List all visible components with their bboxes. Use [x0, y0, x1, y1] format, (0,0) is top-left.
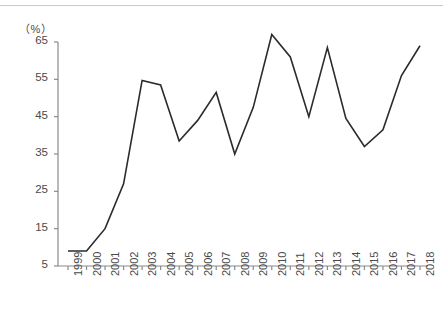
- x-tick-label: 2005: [183, 252, 195, 276]
- x-tick-label: 1999: [72, 252, 84, 276]
- x-tick-label: 2008: [239, 252, 251, 276]
- x-tick-label: 2012: [313, 252, 325, 276]
- y-tick-label: 25: [22, 183, 48, 195]
- data-series-line: [68, 35, 420, 252]
- line-chart: （%） 5152535455565 1999200020012002200320…: [0, 0, 443, 319]
- x-tick-label: 2000: [91, 252, 103, 276]
- y-tick-label: 45: [22, 109, 48, 121]
- x-tick-label: 2006: [202, 252, 214, 276]
- y-tick-label: 35: [22, 146, 48, 158]
- x-tick-label: 2016: [387, 252, 399, 276]
- x-tick-label: 2001: [109, 252, 121, 276]
- y-tick-label: 15: [22, 221, 48, 233]
- x-tick-label: 2013: [331, 252, 343, 276]
- x-tick-label: 2017: [405, 252, 417, 276]
- x-tick-label: 2003: [146, 252, 158, 276]
- x-tick-label: 2002: [128, 252, 140, 276]
- x-tick-label: 2010: [276, 252, 288, 276]
- x-tick-label: 2015: [368, 252, 380, 276]
- x-tick-label: 2014: [350, 252, 362, 276]
- y-tick-label: 65: [22, 34, 48, 46]
- x-tick-label: 2004: [165, 252, 177, 276]
- y-tick-label: 5: [22, 258, 48, 270]
- x-tick-label: 2007: [220, 252, 232, 276]
- x-tick-label: 2011: [294, 252, 306, 276]
- x-tick-label: 2009: [257, 252, 269, 276]
- y-tick-label: 55: [22, 71, 48, 83]
- x-tick-label: 2018: [424, 252, 436, 276]
